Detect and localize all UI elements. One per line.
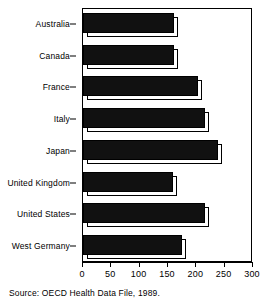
bar-face	[83, 76, 198, 96]
category-tick-3	[70, 119, 76, 120]
x-tick-150	[167, 262, 168, 267]
bar-face	[83, 13, 174, 33]
bar-face	[83, 235, 182, 255]
category-axis-labels: AustraliaCanadaFranceItalyJapanUnited Ki…	[0, 8, 76, 262]
category-tick-4	[70, 150, 76, 151]
category-tick-7	[70, 246, 76, 247]
category-label-canada: Canada	[39, 51, 70, 60]
category-tick-2	[70, 87, 76, 88]
x-tick-300	[252, 262, 253, 267]
category-label-japan: Japan	[46, 146, 70, 155]
x-tick-label-300: 300	[244, 269, 260, 279]
category-tick-1	[70, 55, 76, 56]
x-tick-label-0: 0	[79, 269, 84, 279]
x-tick-50	[110, 262, 111, 267]
category-tick-0	[70, 23, 76, 24]
bar-united-kingdom	[83, 172, 178, 192]
x-tick-label-50: 50	[105, 269, 115, 279]
category-label-italy: Italy	[54, 115, 70, 124]
x-tick-label-150: 150	[159, 269, 175, 279]
bar-face	[83, 203, 205, 223]
x-tick-label-250: 250	[216, 269, 232, 279]
category-tick-6	[70, 214, 76, 215]
x-tick-200	[195, 262, 196, 267]
bar-united-states	[83, 203, 210, 223]
plot-area	[82, 8, 252, 262]
category-label-united-states: United States	[17, 210, 70, 219]
category-tick-5	[70, 182, 76, 183]
bar-west-germany	[83, 235, 187, 255]
bar-face	[83, 45, 174, 65]
bar-face	[83, 172, 173, 192]
x-tick-0	[82, 262, 83, 267]
source-note: Source: OECD Health Data File, 1989.	[9, 288, 160, 298]
bar-face	[83, 140, 218, 160]
category-label-france: France	[43, 83, 70, 92]
bar-france	[83, 76, 203, 96]
bar-japan	[83, 140, 223, 160]
x-tick-label-100: 100	[131, 269, 147, 279]
category-label-west-germany: West Germany	[12, 242, 70, 251]
x-tick-250	[224, 262, 225, 267]
category-label-united-kingdom: United Kingdom	[7, 178, 70, 187]
horizontal-bar-chart: AustraliaCanadaFranceItalyJapanUnited Ki…	[0, 0, 265, 303]
category-label-australia: Australia	[36, 19, 70, 28]
bar-face	[83, 108, 205, 128]
bar-italy	[83, 108, 210, 128]
bar-australia	[83, 13, 179, 33]
bar-canada	[83, 45, 179, 65]
x-tick-label-200: 200	[188, 269, 204, 279]
x-tick-100	[139, 262, 140, 267]
